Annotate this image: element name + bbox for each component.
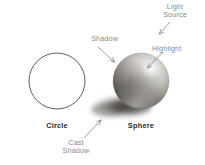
label-light-source: Light Source (148, 3, 202, 20)
label-highlight: Highlight (152, 45, 202, 53)
light-source-arrow (160, 22, 171, 34)
caption-sphere: Sphere (108, 121, 174, 130)
label-cast-shadow: Cast Shadow (52, 139, 100, 156)
label-shadow: Shadow (68, 35, 118, 43)
arrow-layer (0, 0, 205, 165)
shadow-arrow (98, 47, 115, 62)
sphere-shading-diagram: Light Source Shadow Highlight Cast Shado… (0, 0, 205, 165)
highlight-arrow (148, 52, 164, 68)
caption-circle: Circle (24, 121, 90, 130)
